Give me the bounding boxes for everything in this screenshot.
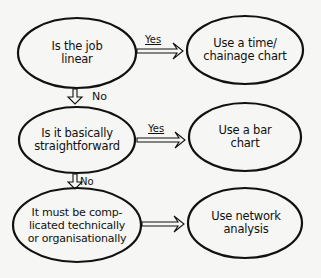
node-a3-label: Use network analysis [211,210,281,236]
arrow-q1-a1 [137,43,183,59]
node-a2-label: Use a bar chart [218,124,271,150]
node-a3: Use network analysis [190,202,302,244]
arrow-q2-a2 [137,132,185,148]
edge-label-q1-a1: Yes [145,34,161,45]
node-q1-label: Is the job linear [51,40,102,66]
node-a1-label: Use a time/ chainage chart [203,37,286,63]
node-q1: Is the job linear [25,32,129,74]
node-a1: Use a time/ chainage chart [188,29,302,71]
node-q2: Is it basically straightforward [22,119,132,161]
edge-label-q1-q2: No [92,90,107,103]
node-q2-label: Is it basically straightforward [34,127,120,153]
edge-label-q2-a2: Yes [148,123,164,134]
edge-label-q2-q3: No [80,176,94,187]
node-a2: Use a bar chart [190,116,300,158]
arrow-q3-a3 [142,216,184,232]
arrow-q1-q2 [68,89,82,104]
node-q3-label: It must be comp- licated technically or … [28,206,127,245]
node-q3: It must be comp- licated technically or … [14,200,140,250]
